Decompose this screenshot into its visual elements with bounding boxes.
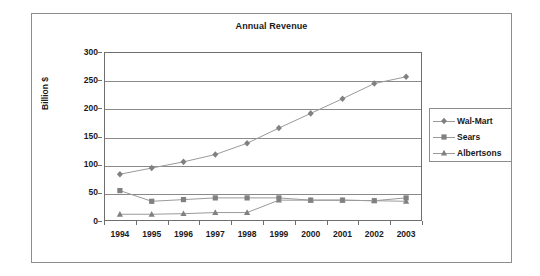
x-axis-tick-label: 2003 <box>397 229 416 239</box>
x-axis-tick-mark <box>231 221 232 225</box>
legend-item-wal-mart[interactable]: Wal-Mart <box>433 113 493 129</box>
y-axis-tick-label: 100 <box>84 160 98 169</box>
legend-label: Albertsons <box>457 148 501 158</box>
data-point-marker <box>441 134 446 139</box>
y-axis-tick-mark <box>98 80 102 81</box>
y-axis-tick-label: 50 <box>89 188 98 197</box>
series-sears <box>117 188 408 204</box>
x-axis-tick-label: 1995 <box>142 229 161 239</box>
series-line <box>120 191 406 202</box>
data-point-marker <box>149 199 154 204</box>
data-point-marker <box>181 197 186 202</box>
x-axis-tick-label: 2002 <box>365 229 384 239</box>
series-albertsons <box>117 197 409 217</box>
data-point-marker <box>117 171 123 178</box>
data-point-marker <box>441 118 447 125</box>
x-axis-tick-label: 1997 <box>206 229 225 239</box>
data-point-marker <box>276 125 282 132</box>
data-point-marker <box>441 150 447 156</box>
data-point-marker <box>117 188 122 193</box>
x-axis-tick-mark <box>168 221 169 225</box>
data-point-marker <box>308 110 314 117</box>
x-axis-tick-label: 1998 <box>238 229 257 239</box>
y-axis-tick-mark <box>98 137 102 138</box>
y-axis-tick-labels: 050100150200250300 <box>62 52 98 221</box>
y-axis-tick-label: 300 <box>84 48 98 57</box>
y-axis-tick-label: 250 <box>84 76 98 85</box>
chart-title: Annual Revenue <box>32 21 511 31</box>
x-axis-tick-mark <box>199 221 200 225</box>
x-axis-tick-label: 2001 <box>333 229 352 239</box>
x-axis-ticks <box>104 221 422 226</box>
legend-item-albertsons[interactable]: Albertsons <box>433 145 501 161</box>
x-axis-tick-mark <box>358 221 359 225</box>
series-wal-mart <box>117 73 409 177</box>
data-point-marker <box>181 159 187 166</box>
x-axis-tick-mark <box>295 221 296 225</box>
x-axis-tick-label: 2000 <box>301 229 320 239</box>
x-axis-tick-mark <box>327 221 328 225</box>
x-axis-tick-mark <box>422 221 423 225</box>
data-point-marker <box>245 195 250 200</box>
data-point-marker <box>340 95 346 102</box>
data-point-marker <box>212 151 218 158</box>
series-plot <box>104 52 422 221</box>
series-line <box>120 200 406 214</box>
x-axis-tick-mark <box>136 221 137 225</box>
chart-screenshot: Annual Revenue Billion $ 050100150200250… <box>0 0 540 276</box>
y-axis-tick-mark <box>98 193 102 194</box>
y-axis-tick-mark <box>98 108 102 109</box>
y-axis-tick-label: 150 <box>84 132 98 141</box>
y-axis-tick-mark <box>98 52 102 53</box>
chart-frame: Annual Revenue Billion $ 050100150200250… <box>31 13 512 263</box>
legend-marker-square-icon <box>433 132 455 142</box>
legend-marker-diamond-icon <box>433 116 455 126</box>
data-point-marker <box>403 73 409 80</box>
legend-item-sears[interactable]: Sears <box>433 129 480 145</box>
legend-label: Wal-Mart <box>457 116 493 126</box>
legend-label: Sears <box>457 132 480 142</box>
x-axis-tick-label: 1999 <box>269 229 288 239</box>
data-point-marker <box>213 195 218 200</box>
y-axis-tick-label: 200 <box>84 104 98 113</box>
series-line <box>120 77 406 174</box>
x-axis-tick-label: 1996 <box>174 229 193 239</box>
x-axis-tick-mark <box>263 221 264 225</box>
x-axis-tick-labels: 1994199519961997199819992000200120022003 <box>104 229 422 243</box>
data-point-marker <box>371 80 377 87</box>
data-point-marker <box>244 140 250 147</box>
x-axis-tick-mark <box>104 221 105 225</box>
x-axis-tick-mark <box>390 221 391 225</box>
data-point-marker <box>149 165 155 172</box>
legend-marker-triangle-icon <box>433 148 455 158</box>
y-axis-tick-mark <box>98 165 102 166</box>
legend: Wal-MartSearsAlbertsons <box>429 108 512 162</box>
x-axis-tick-label: 1994 <box>110 229 129 239</box>
y-axis-tick-mark <box>98 221 102 222</box>
y-axis-title: Billion $ <box>40 77 50 110</box>
